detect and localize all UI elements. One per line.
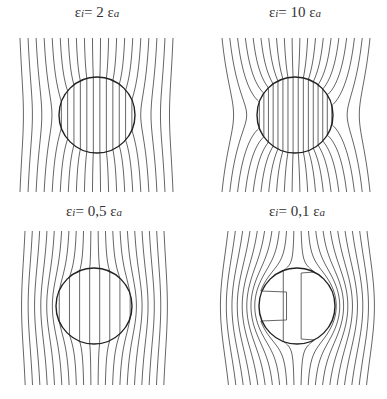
field-line (98, 231, 100, 385)
field-line (52, 38, 61, 192)
field-line (59, 231, 69, 385)
field-line (164, 231, 168, 385)
field-line (47, 231, 55, 385)
field-line (323, 38, 339, 192)
field-line (84, 38, 86, 192)
field-line (135, 231, 143, 385)
field-line (247, 231, 265, 385)
panel-top-right (222, 38, 370, 192)
field-line (119, 38, 124, 192)
field-line (106, 38, 108, 192)
field-line (52, 231, 61, 385)
field-line (367, 231, 375, 385)
field-line (323, 231, 344, 385)
field-line (308, 38, 315, 192)
panel-bottom-right (220, 231, 374, 385)
panel-title-bottom-right: εi= 0,1 εa (269, 203, 325, 220)
panel-title-bottom-left: εi= 0,5 εa (66, 203, 122, 220)
field-line (113, 231, 120, 385)
field-line (160, 38, 164, 192)
field-line (69, 231, 76, 385)
field-line (238, 38, 260, 192)
field-line (226, 231, 235, 385)
field-line (141, 38, 149, 192)
field-lines-diagram (0, 0, 387, 399)
field-line (261, 38, 273, 192)
field-line (76, 38, 80, 192)
field-line (308, 231, 336, 385)
field-line (68, 38, 74, 192)
field-line (253, 38, 268, 192)
panel-bottom-left (22, 231, 168, 385)
field-line (284, 38, 288, 192)
field-line (169, 38, 173, 192)
field-line (36, 38, 42, 192)
field-line (151, 38, 157, 192)
field-line (303, 38, 307, 192)
field-line (222, 38, 234, 192)
dielectric-circle (59, 77, 135, 153)
field-line (28, 38, 32, 192)
dielectric-circle (56, 268, 132, 344)
field-line (41, 231, 47, 385)
field-line (347, 38, 362, 192)
field-line (283, 231, 294, 385)
field-line (28, 231, 32, 385)
field-line (142, 231, 148, 385)
field-line (245, 38, 263, 192)
field-line (105, 231, 109, 385)
field-line (44, 38, 52, 192)
field-line (230, 38, 247, 192)
field-line (100, 38, 101, 192)
field-line (113, 38, 117, 192)
field-line (298, 38, 300, 192)
field-line (156, 231, 160, 385)
panel-top-left (20, 38, 173, 192)
panel-title-top-right: εi= 10 εa (269, 4, 321, 21)
field-line (220, 231, 228, 385)
field-line (90, 231, 91, 385)
field-line (359, 231, 368, 385)
field-line (242, 231, 258, 385)
field-line (80, 231, 84, 385)
field-line (292, 38, 293, 192)
field-line (35, 231, 40, 385)
field-line (132, 38, 141, 192)
field-line (330, 231, 348, 385)
panel-title-top-left: εi= 2 εa (75, 4, 120, 21)
field-line (149, 231, 154, 385)
field-line (20, 38, 23, 192)
field-line (359, 38, 370, 192)
field-line (327, 38, 346, 192)
field-line (277, 38, 283, 192)
dielectric-circle (259, 268, 335, 344)
field-line (22, 231, 26, 385)
field-line (92, 38, 93, 192)
field-line (251, 231, 272, 385)
